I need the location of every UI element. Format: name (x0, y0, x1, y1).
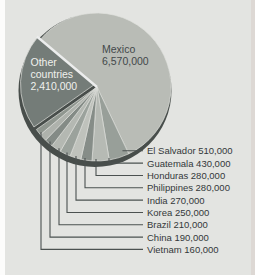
callout-label-brazil: Brazil 210,000 (147, 219, 208, 230)
pie-chart: El Salvador 510,000Guatemala 430,000Hond… (0, 0, 255, 275)
other-slice-label-line1: Other (31, 56, 58, 68)
left-page-margin (0, 0, 5, 275)
mexico-slice-label: Mexico (102, 43, 135, 55)
figure-canvas: El Salvador 510,000Guatemala 430,000Hond… (0, 0, 255, 275)
right-page-edge (251, 0, 255, 275)
callout-label-china: China 190,000 (147, 232, 209, 243)
leader-line-el-salvador (123, 150, 143, 151)
callout-label-india: India 270,000 (147, 195, 205, 206)
other-slice-value: 2,410,000 (31, 80, 78, 92)
callout-label-guatemala: Guatemala 430,000 (147, 158, 230, 169)
other-slice-label-line2: countries (31, 68, 74, 80)
callout-label-vietnam: Vietnam 160,000 (147, 244, 219, 255)
mexico-slice-value: 6,570,000 (102, 55, 149, 67)
callout-label-korea: Korea 250,000 (147, 207, 209, 218)
callout-label-philippines: Philippines 280,000 (147, 182, 230, 193)
callout-label-el-salvador: El Salvador 510,000 (147, 145, 233, 156)
callout-label-honduras: Honduras 280,000 (147, 170, 225, 181)
